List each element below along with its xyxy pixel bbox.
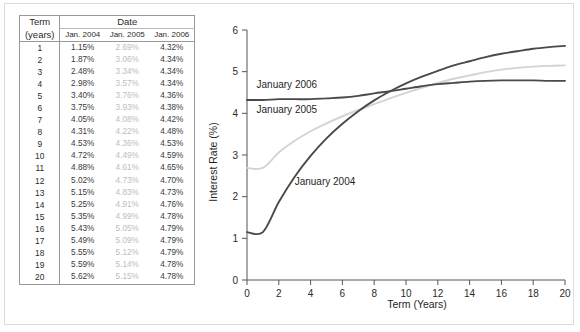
- x-tick-label: 18: [528, 288, 540, 299]
- table-row: 42.98%3.57%4.34%: [20, 78, 195, 90]
- table-row: 155.35%4.99%4.78%: [20, 211, 195, 223]
- x-tick-label: 4: [308, 288, 314, 299]
- x-tick-label: 2: [276, 288, 282, 299]
- cell-jan-2006: 4.48%: [149, 126, 194, 138]
- x-tick-label: 0: [244, 288, 250, 299]
- cell-jan-2005: 3.76%: [105, 90, 150, 102]
- cell-jan-2004: 2.98%: [60, 78, 105, 90]
- x-axis-title: Term (Years): [387, 298, 447, 310]
- cell-term: 20: [20, 271, 60, 285]
- series-label-january-2004: January 2004: [295, 176, 356, 187]
- y-tick-label: 3: [232, 150, 238, 161]
- table-row: 104.72%4.49%4.59%: [20, 150, 195, 162]
- table-row: 125.02%4.73%4.70%: [20, 175, 195, 187]
- y-tick-label: 0: [232, 275, 238, 286]
- cell-jan-2005: 4.22%: [105, 126, 150, 138]
- cell-jan-2005: 5.12%: [105, 247, 150, 259]
- cell-jan-2005: 2.69%: [105, 41, 150, 54]
- cell-jan-2004: 4.05%: [60, 114, 105, 126]
- cell-jan-2005: 3.06%: [105, 54, 150, 66]
- cell-jan-2006: 4.70%: [149, 175, 194, 187]
- yield-curve-chart-panel: 02468101214161820 0123456 January 2004Ja…: [201, 12, 573, 324]
- cell-jan-2005: 4.36%: [105, 138, 150, 150]
- header-jan-2006: Jan. 2006: [149, 29, 194, 42]
- cell-term: 7: [20, 114, 60, 126]
- y-tick-label: 6: [232, 25, 238, 36]
- cell-jan-2004: 5.25%: [60, 199, 105, 211]
- x-tick-label: 16: [496, 288, 508, 299]
- table-row: 165.43%5.05%4.79%: [20, 223, 195, 235]
- table-row: 74.05%4.08%4.42%: [20, 114, 195, 126]
- cell-jan-2005: 4.99%: [105, 211, 150, 223]
- y-tick-label: 5: [232, 66, 238, 77]
- header-jan-2005: Jan. 2005: [105, 29, 150, 42]
- cell-jan-2006: 4.42%: [149, 114, 194, 126]
- table-row: 135.15%4.83%4.73%: [20, 187, 195, 199]
- cell-jan-2006: 4.38%: [149, 102, 194, 114]
- header-term: Term: [20, 16, 60, 29]
- x-tick-label: 6: [340, 288, 346, 299]
- cell-jan-2006: 4.76%: [149, 199, 194, 211]
- table-row: 145.25%4.91%4.76%: [20, 199, 195, 211]
- cell-jan-2004: 5.35%: [60, 211, 105, 223]
- cell-term: 18: [20, 247, 60, 259]
- cell-term: 16: [20, 223, 60, 235]
- cell-jan-2004: 5.15%: [60, 187, 105, 199]
- y-tick-label: 1: [232, 233, 238, 244]
- table-row: 63.75%3.93%4.38%: [20, 102, 195, 114]
- cell-term: 15: [20, 211, 60, 223]
- table-header: Term Date (years) Jan. 2004 Jan. 2005 Ja…: [20, 16, 195, 42]
- y-axis-ticks: 0123456: [232, 25, 247, 286]
- cell-jan-2006: 4.59%: [149, 150, 194, 162]
- cell-jan-2006: 4.36%: [149, 90, 194, 102]
- cell-jan-2004: 5.55%: [60, 247, 105, 259]
- cell-jan-2006: 4.73%: [149, 187, 194, 199]
- cell-jan-2005: 5.14%: [105, 259, 150, 271]
- y-tick-label: 2: [232, 191, 238, 202]
- cell-jan-2004: 4.31%: [60, 126, 105, 138]
- cell-jan-2005: 5.15%: [105, 271, 150, 285]
- cell-term: 5: [20, 90, 60, 102]
- table-row: 114.88%4.61%4.65%: [20, 162, 195, 174]
- table-row: 94.53%4.36%4.53%: [20, 138, 195, 150]
- interest-rate-table-panel: Term Date (years) Jan. 2004 Jan. 2005 Ja…: [19, 15, 195, 285]
- cell-jan-2006: 4.34%: [149, 54, 194, 66]
- cell-jan-2006: 4.32%: [149, 41, 194, 54]
- cell-jan-2005: 4.83%: [105, 187, 150, 199]
- cell-jan-2006: 4.34%: [149, 78, 194, 90]
- x-tick-label: 14: [464, 288, 476, 299]
- table-body: 11.15%2.69%4.32%21.87%3.06%4.34%32.48%3.…: [20, 41, 195, 285]
- table-row: 32.48%3.34%4.34%: [20, 66, 195, 78]
- cell-term: 19: [20, 259, 60, 271]
- cell-term: 2: [20, 54, 60, 66]
- cell-jan-2004: 5.43%: [60, 223, 105, 235]
- x-tick-label: 20: [559, 288, 571, 299]
- cell-jan-2004: 5.59%: [60, 259, 105, 271]
- cell-jan-2004: 3.40%: [60, 90, 105, 102]
- cell-jan-2006: 4.79%: [149, 247, 194, 259]
- table-row: 53.40%3.76%4.36%: [20, 90, 195, 102]
- cell-term: 17: [20, 235, 60, 247]
- cell-jan-2006: 4.79%: [149, 223, 194, 235]
- cell-jan-2004: 5.02%: [60, 175, 105, 187]
- cell-jan-2005: 4.91%: [105, 199, 150, 211]
- x-tick-label: 8: [371, 288, 377, 299]
- cell-jan-2006: 4.65%: [149, 162, 194, 174]
- cell-term: 10: [20, 150, 60, 162]
- cell-jan-2005: 5.09%: [105, 235, 150, 247]
- cell-term: 6: [20, 102, 60, 114]
- page-frame: Term Date (years) Jan. 2004 Jan. 2005 Ja…: [4, 3, 574, 325]
- cell-term: 9: [20, 138, 60, 150]
- table-row: 205.62%5.15%4.78%: [20, 271, 195, 285]
- cell-jan-2006: 4.53%: [149, 138, 194, 150]
- y-tick-label: 4: [232, 108, 238, 119]
- table-row: 21.87%3.06%4.34%: [20, 54, 195, 66]
- table-row: 84.31%4.22%4.48%: [20, 126, 195, 138]
- cell-jan-2004: 4.88%: [60, 162, 105, 174]
- cell-jan-2006: 4.78%: [149, 271, 194, 285]
- cell-jan-2004: 1.15%: [60, 41, 105, 54]
- cell-term: 14: [20, 199, 60, 211]
- cell-term: 4: [20, 78, 60, 90]
- cell-jan-2004: 4.53%: [60, 138, 105, 150]
- cell-jan-2005: 5.05%: [105, 223, 150, 235]
